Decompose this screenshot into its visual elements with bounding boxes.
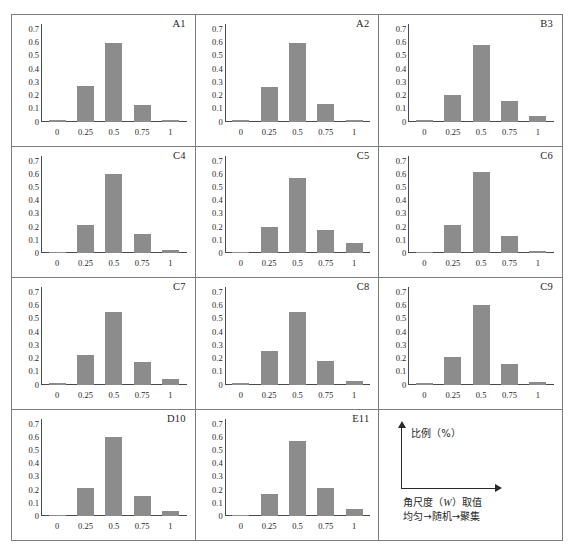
x-tick-label: 0.5 xyxy=(292,128,303,137)
x-tick-label: 1 xyxy=(536,391,540,400)
bar-slot: 1 xyxy=(524,29,552,122)
y-tick-label: 0.4 xyxy=(396,327,407,336)
y-tick-label: 0.3 xyxy=(28,78,39,87)
y-tick-label: 0.7 xyxy=(28,419,39,428)
y-tick-label: 0 xyxy=(402,117,406,126)
y-tick-label: 0.6 xyxy=(212,301,223,310)
x-tick-label: 1 xyxy=(536,128,540,137)
bar-slot: 0 xyxy=(227,29,255,122)
bar xyxy=(317,104,334,121)
x-tick-label: 0 xyxy=(239,522,243,531)
bar xyxy=(416,252,433,254)
bar-slot: 1 xyxy=(340,292,368,385)
x-tick-label: 1 xyxy=(168,522,172,531)
y-tick-label: 0.1 xyxy=(212,367,223,376)
bar-slot: 0.5 xyxy=(100,424,128,517)
x-tick-label: 0.75 xyxy=(135,391,150,400)
y-tick-label: 0.5 xyxy=(212,51,223,60)
panel-label: A1 xyxy=(172,19,185,30)
bar-slot: 0 xyxy=(410,161,438,254)
bar-series: 00.250.50.751 xyxy=(43,424,185,517)
chart-panel-c4: C400.10.20.30.40.50.60.700.250.50.751 xyxy=(12,147,196,279)
bar xyxy=(49,383,66,385)
y-tick-label: 0.5 xyxy=(212,446,223,455)
y-tick-label: 0.7 xyxy=(212,419,223,428)
bar-slot: 0.5 xyxy=(283,424,311,517)
bar-slot: 0.25 xyxy=(439,29,467,122)
chart-panel-c5: C500.10.20.30.40.50.60.700.250.50.751 xyxy=(196,147,380,279)
x-tick-label: 1 xyxy=(536,259,540,268)
bar-slot: 0 xyxy=(410,29,438,122)
y-tick-label: 0.1 xyxy=(212,104,223,113)
bar xyxy=(105,312,122,384)
x-tick-label: 0.25 xyxy=(78,259,93,268)
plot-area: 00.10.20.30.40.50.60.700.250.50.751 xyxy=(410,161,552,254)
x-tick-label: 0.5 xyxy=(476,128,487,137)
bar xyxy=(134,105,151,122)
bar xyxy=(289,312,306,384)
x-tick-label: 0.75 xyxy=(502,128,517,137)
plot-area: 00.10.20.30.40.50.60.700.250.50.751 xyxy=(227,161,369,254)
bar xyxy=(501,364,518,384)
bar xyxy=(49,515,66,517)
bar xyxy=(529,251,546,253)
x-tick-label: 0.5 xyxy=(292,259,303,268)
x-tick-label: 0.5 xyxy=(476,391,487,400)
bar-slot: 1 xyxy=(340,161,368,254)
bar xyxy=(289,43,306,122)
bar-slot: 0 xyxy=(43,292,71,385)
bar-slot: 0.75 xyxy=(128,292,156,385)
x-tick-label: 0.25 xyxy=(262,522,277,531)
bar-series: 00.250.50.751 xyxy=(410,161,552,254)
bar-slot: 0.25 xyxy=(439,292,467,385)
plot-area: 00.10.20.30.40.50.60.700.250.50.751 xyxy=(43,161,185,254)
x-tick-label: 0.25 xyxy=(262,128,277,137)
bar xyxy=(77,225,94,253)
y-tick-label: 0.2 xyxy=(212,91,223,100)
y-tick-label: 0.5 xyxy=(396,314,407,323)
bar xyxy=(289,178,306,253)
bar-slot: 0.5 xyxy=(100,29,128,122)
bar xyxy=(162,379,179,385)
panel-label: C8 xyxy=(357,282,370,293)
y-tick-label: 0.3 xyxy=(28,209,39,218)
chart-panel-d10: D1000.10.20.30.40.50.60.700.250.50.751 xyxy=(12,410,196,542)
y-tick-label: 0.6 xyxy=(28,38,39,47)
y-tick-label: 0.5 xyxy=(28,183,39,192)
legend-x-label-suffix: ）取值 xyxy=(452,497,482,508)
bar-slot: 1 xyxy=(524,292,552,385)
bar xyxy=(261,227,278,253)
bar xyxy=(77,86,94,122)
y-tick-label: 0.1 xyxy=(396,236,407,245)
legend-x-axis-label-line2: 均匀→随机→聚集 xyxy=(403,510,481,525)
x-tick-label: 0.25 xyxy=(445,391,460,400)
y-tick-label: 0 xyxy=(402,380,406,389)
y-tick-label: 0.6 xyxy=(212,38,223,47)
panel-label: A2 xyxy=(356,19,369,30)
multi-panel-bar-chart-figure: A100.10.20.30.40.50.60.700.250.50.751A20… xyxy=(0,0,575,554)
bar-slot: 0.5 xyxy=(467,161,495,254)
legend-x-label-symbol: W xyxy=(443,497,451,508)
y-tick-label: 0.3 xyxy=(396,78,407,87)
y-tick-label: 0.6 xyxy=(212,432,223,441)
x-tick-label: 1 xyxy=(352,128,356,137)
y-tick-label: 0.5 xyxy=(28,446,39,455)
x-tick-label: 0 xyxy=(239,128,243,137)
bar-slot: 0.5 xyxy=(467,29,495,122)
bar xyxy=(529,382,546,385)
y-tick-label: 0.4 xyxy=(212,196,223,205)
y-axis-line xyxy=(41,24,42,122)
y-axis-line xyxy=(41,287,42,385)
y-tick-label: 0.7 xyxy=(212,156,223,165)
x-tick-label: 0.5 xyxy=(109,391,120,400)
bar-slot: 1 xyxy=(156,424,184,517)
x-tick-label: 0 xyxy=(422,128,426,137)
y-tick-label: 0.3 xyxy=(28,341,39,350)
y-tick-label: 0.1 xyxy=(212,236,223,245)
x-tick-label: 0.75 xyxy=(135,522,150,531)
plot-area: 00.10.20.30.40.50.60.700.250.50.751 xyxy=(227,292,369,385)
y-tick-label: 0.5 xyxy=(396,51,407,60)
y-tick-label: 0.3 xyxy=(396,341,407,350)
y-tick-label: 0.5 xyxy=(396,183,407,192)
x-tick-label: 0.75 xyxy=(318,128,333,137)
